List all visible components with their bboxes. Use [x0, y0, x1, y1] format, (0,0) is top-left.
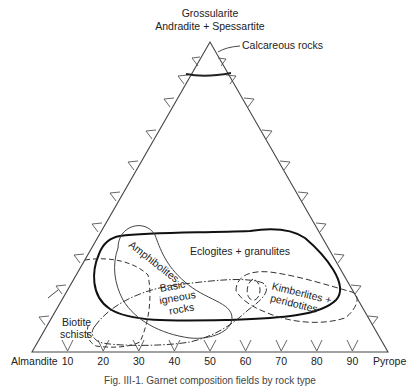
base-tick-labels: 10 20 30 40 50 60 70 80 90 [62, 355, 359, 367]
calcareous-leader [218, 46, 240, 52]
tick-label: 50 [204, 355, 216, 367]
apex-label-andradite-spessartite: Andradite + Spessartite [155, 20, 265, 32]
apex-label-grossularite: Grossularite [182, 7, 239, 19]
label-basic-igneous-rocks: Basic igneous rocks [156, 276, 198, 318]
tick-label: 10 [62, 355, 74, 367]
label-amphibolites: Amphibolites [127, 238, 182, 284]
label-calcareous-rocks: Calcareous rocks [242, 39, 323, 51]
base-ticks [62, 340, 358, 351]
label-kimberlites-peridotites: Kimberlites + peridotites [268, 280, 333, 318]
tick-label: 40 [169, 355, 181, 367]
tick-label: 20 [97, 355, 109, 367]
figure-caption: Fig. III-1. Garnet composition fields by… [104, 375, 316, 386]
calcareous-field [186, 73, 231, 76]
tick-label: 30 [133, 355, 145, 367]
tick-label: 80 [311, 355, 323, 367]
biotite-leader [48, 290, 58, 298]
tick-label: 60 [240, 355, 252, 367]
tick-label: 90 [347, 355, 359, 367]
label-biotite: Biotite [62, 316, 91, 328]
kimberlites-loop [247, 279, 260, 300]
vertex-label-almandite: Almandite [11, 355, 58, 367]
label-eclogites-granulites: Eclogites + granulites [190, 245, 290, 257]
label-schists: schists [60, 328, 92, 340]
ternary-triangle [32, 42, 388, 352]
tick-label: 70 [275, 355, 287, 367]
ternary-diagram: Grossularite Andradite + Spessartite Alm… [0, 0, 415, 386]
vertex-label-pyrope: Pyrope [373, 355, 406, 367]
